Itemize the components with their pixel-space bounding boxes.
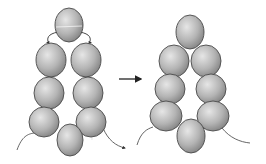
row3-right-bead xyxy=(196,74,226,104)
before-panel xyxy=(17,8,125,156)
row2-left-bead xyxy=(159,45,189,77)
thread-left-tail xyxy=(137,127,153,145)
row4-left-bead xyxy=(150,101,182,131)
row3-right-bead xyxy=(73,77,103,109)
diagram-canvas xyxy=(0,0,266,164)
curved-arrow-right-icon xyxy=(80,32,90,44)
row3-left-bead xyxy=(34,77,64,109)
thread-right-tail xyxy=(103,128,125,148)
after-panel xyxy=(137,15,250,153)
row3-left-bead xyxy=(155,74,185,104)
bottom-bead xyxy=(177,119,205,153)
top-bead xyxy=(176,15,204,49)
curved-arrow-left-icon xyxy=(48,32,58,44)
beading-diagram: Beading step: top bead repositioned into… xyxy=(0,0,266,164)
row2-left-bead xyxy=(36,43,66,77)
thread-left-tail xyxy=(17,133,34,150)
row4-left-bead xyxy=(29,107,59,137)
top-bead xyxy=(55,8,83,42)
bottom-bead xyxy=(57,124,83,156)
row2-right-bead xyxy=(191,45,221,77)
row2-right-bead xyxy=(71,43,101,77)
thread-right-tail xyxy=(222,128,250,143)
